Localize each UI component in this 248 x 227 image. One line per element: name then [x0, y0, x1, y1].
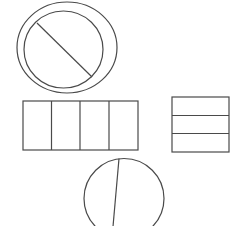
circle-divided-unequally	[84, 159, 164, 227]
rectangle-divided-into-three-rows	[172, 97, 229, 152]
circle-with-outer-ring-halved-diagonally	[17, 2, 117, 93]
diagram-svg	[0, 0, 248, 226]
fraction-shapes-diagram	[0, 0, 248, 226]
rectangle-divided-into-four-columns	[23, 101, 138, 150]
off-center-divider-line	[112, 159, 119, 227]
three-part-rectangle-outline	[172, 97, 229, 152]
outer-ring-ellipse	[17, 2, 117, 93]
bottom-circle	[84, 159, 164, 227]
diagonal-divider-line	[37, 23, 92, 77]
